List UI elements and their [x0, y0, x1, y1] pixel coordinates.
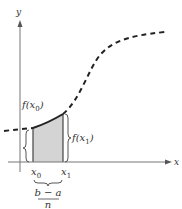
- y-axis-label: y: [15, 7, 22, 17]
- dashed-curve: [4, 32, 165, 131]
- x0-label: x0: [31, 166, 41, 180]
- f-x0-label: f(x0): [21, 99, 44, 113]
- width-denominator: n: [45, 199, 51, 209]
- x1-label: x1: [61, 166, 71, 180]
- x-axis-arrow-icon: [165, 160, 172, 165]
- y-axis-arrow-icon: [18, 20, 23, 27]
- f-x0-brace: [23, 130, 29, 162]
- width-brace: [34, 180, 62, 186]
- f-x1-brace: [65, 114, 71, 162]
- f-x1-label: f(x1): [71, 132, 94, 146]
- diagram: y x f(x0) f(x1) x0 x1 b − a n: [0, 0, 182, 209]
- x-axis-label: x: [174, 157, 179, 167]
- width-numerator: b − a: [34, 187, 61, 198]
